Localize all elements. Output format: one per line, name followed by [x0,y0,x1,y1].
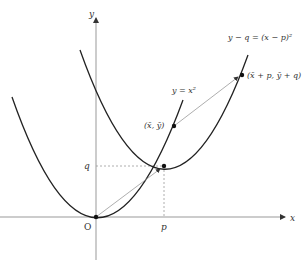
point-translated [240,73,244,77]
point-translated-label: (x̄ + p, ȳ + q) [247,71,301,80]
origin-label: O [84,222,91,232]
q-label: q [84,161,90,171]
x-axis-label: x [290,213,295,223]
curve-shifted-label: y − q = (x − p)² [227,33,292,42]
curve-shifted [80,50,248,169]
curve-base [12,97,183,218]
point-xbar-ybar [172,124,176,128]
parabola-translation-diagram: y x O p q y = x² y − q = (x − p)² (x̄, ȳ… [0,0,304,267]
vertex-point [162,164,166,168]
origin-point [94,215,98,219]
y-axis-label: y [88,9,95,19]
curve-base-label: y = x² [171,86,196,95]
p-label: p [161,222,167,232]
point-xbar-ybar-label: (x̄, ȳ) [144,121,164,130]
arrow-origin-to-vertex [96,169,160,217]
